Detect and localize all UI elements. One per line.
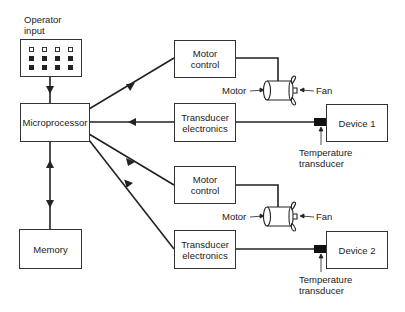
fan-1-label: Fan bbox=[316, 85, 332, 96]
operator-input-label: Operator input bbox=[24, 14, 62, 36]
temp-2-line1: Temperature bbox=[299, 274, 352, 285]
motor-control-1-label-2: control bbox=[191, 59, 220, 70]
motor-fan-2-icon bbox=[264, 202, 298, 231]
memory-label: Memory bbox=[33, 244, 67, 255]
fan-2-label: Fan bbox=[316, 211, 332, 222]
operator-label-line2: input bbox=[24, 25, 62, 36]
motor-control-1-box: Motorcontrol bbox=[174, 40, 236, 78]
operator-label-line1: Operator bbox=[24, 14, 62, 25]
temperature-transducer-2-label: Temperature transducer bbox=[299, 274, 352, 296]
transducer-2-label-2: electronics bbox=[181, 250, 229, 261]
motor-2-label: Motor bbox=[222, 211, 246, 222]
motor-control-2-box: Motorcontrol bbox=[174, 166, 236, 204]
motor-control-1-label-1: Motor bbox=[191, 48, 220, 59]
transducer-1-label-2: electronics bbox=[181, 123, 229, 134]
transducer-2-label-1: Transducer bbox=[181, 239, 229, 250]
transducer-electronics-2-box: Transducerelectronics bbox=[174, 230, 236, 269]
device-2-label: Device 2 bbox=[339, 245, 376, 256]
temp-2-line2: transducer bbox=[299, 285, 352, 296]
microprocessor-label: Microprocessor bbox=[23, 117, 88, 128]
device-1-label: Device 1 bbox=[339, 118, 376, 129]
device-1-box: Device 1 bbox=[326, 104, 388, 142]
wire-motor-control-1-motor bbox=[236, 58, 278, 81]
microprocessor-box: Microprocessor bbox=[20, 103, 90, 142]
temp-1-line1: Temperature bbox=[299, 147, 352, 158]
memory-box: Memory bbox=[19, 229, 82, 269]
transducer-1-label-1: Transducer bbox=[181, 112, 229, 123]
wire-mpu-motor-control-2 bbox=[89, 134, 174, 185]
motor-1-label: Motor bbox=[222, 85, 246, 96]
wire-motor-control-2-motor bbox=[236, 185, 278, 207]
keypad-icon bbox=[29, 47, 74, 70]
motor-fan-1-icon bbox=[264, 76, 298, 105]
temp-1-line2: transducer bbox=[299, 158, 352, 169]
operator-input-keypad bbox=[20, 39, 82, 77]
wire-transducer-2-mpu bbox=[89, 140, 174, 249]
motor-control-2-label-1: Motor bbox=[191, 174, 220, 185]
device-2-box: Device 2 bbox=[326, 231, 388, 269]
transducer-electronics-1-box: Transducerelectronics bbox=[174, 103, 236, 142]
temperature-transducer-1-label: Temperature transducer bbox=[299, 147, 352, 169]
motor-control-2-label-2: control bbox=[191, 185, 220, 196]
